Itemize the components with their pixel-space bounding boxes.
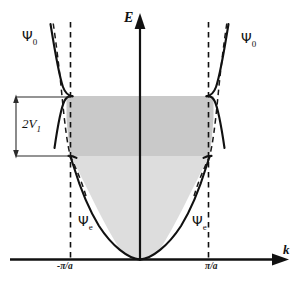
curve-label-psi-zero-left: Ψ0 xyxy=(22,30,37,47)
curve-label-psi-even-left: Ψe xyxy=(78,215,93,232)
tick-label-minus-pi-over-a: -π/a xyxy=(57,262,73,272)
tick-label-pi-over-a: π/a xyxy=(205,262,218,272)
band-gap-label: 2V1 xyxy=(22,117,41,134)
curve-label-psi-zero-right: Ψ0 xyxy=(241,32,256,49)
curve-label-psi-even-right: Ψe xyxy=(192,215,207,232)
band-structure-figure: Ψ0 Ψ0 Ψe Ψe E k -π/a π/a 2V1 xyxy=(0,0,300,285)
energy-axis-label: E xyxy=(124,11,133,25)
wavevector-axis-label: k xyxy=(283,243,290,256)
